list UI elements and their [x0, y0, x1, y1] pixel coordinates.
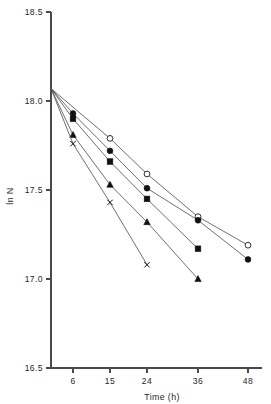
x-tick-label-36: 36: [193, 376, 203, 386]
series-filled-circle-marker: [245, 257, 251, 263]
series-cross: [51, 89, 150, 268]
series-open-circle-marker: [144, 171, 150, 177]
series-cross-line: [51, 89, 147, 265]
x-axis-tick-labels: 6 15 24 36 48: [70, 376, 253, 386]
x-tick-label-24: 24: [142, 376, 152, 386]
y-tick-label-18-5: 18.5: [25, 7, 43, 17]
y-axis-tick-labels: 18.5 18.0 17.5 17.0 16.5: [25, 7, 43, 373]
series-open-circle: [51, 89, 251, 249]
y-axis-title: ln N: [5, 187, 15, 204]
chart-plot-area: 18.5 18.0 17.5 17.0 16.5 6 15 24 36 48 T…: [0, 0, 271, 404]
y-axis-ticks: [46, 12, 51, 368]
series-filled-square-marker: [70, 116, 76, 122]
x-axis-title: Time (h): [144, 392, 180, 402]
series-filled-square-marker: [144, 196, 150, 202]
y-tick-label-17-5: 17.5: [25, 185, 43, 195]
series-filled-square-marker: [195, 246, 201, 252]
y-tick-label-17-0: 17.0: [25, 274, 43, 284]
series-open-circle-line: [51, 89, 248, 246]
series-filled-circle-marker: [144, 185, 150, 191]
series-filled-square-marker: [107, 159, 113, 165]
y-tick-label-18-0: 18.0: [25, 96, 43, 106]
x-tick-label-6: 6: [70, 376, 75, 386]
y-tick-label-16-5: 16.5: [25, 363, 43, 373]
series-open-circle-marker: [245, 242, 251, 248]
series-filled-circle: [51, 89, 251, 263]
series-filled-circle-marker: [195, 217, 201, 223]
x-tick-label-48: 48: [243, 376, 253, 386]
series-open-circle-marker: [107, 135, 113, 141]
series-filled-circle-marker: [107, 148, 113, 154]
series-filled-triangle-marker: [70, 131, 76, 137]
x-tick-label-15: 15: [105, 376, 115, 386]
chart-figure: 18.5 18.0 17.5 17.0 16.5 6 15 24 36 48 T…: [0, 0, 271, 404]
series-layer: [51, 89, 251, 282]
x-axis-ticks: [73, 368, 248, 373]
